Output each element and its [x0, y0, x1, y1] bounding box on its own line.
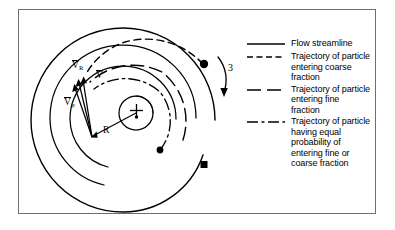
legend-swatch-dash-dot	[246, 116, 286, 128]
rotation-arrowhead	[220, 88, 227, 97]
label-vector-v-radial: VR	[72, 60, 83, 71]
legend-swatch-long-dash	[246, 84, 286, 96]
legend-item-flow-streamline: Flow streamline	[246, 38, 370, 50]
label-vector-v-tangential: Vφ	[64, 97, 75, 108]
particle-top-right	[200, 60, 208, 68]
vector-v	[79, 83, 92, 137]
particle-bottom-right	[201, 161, 208, 168]
legend-label-equal-probability-trajectory: Trajectory of particle having equal prob…	[291, 116, 370, 169]
trajectory-equal-probability	[94, 79, 170, 150]
legend-item-equal-probability-trajectory: Trajectory of particle having equal prob…	[246, 116, 370, 169]
trajectory-coarse	[86, 39, 203, 74]
legend-item-coarse-trajectory: Trajectory of particle entering coarse f…	[246, 51, 370, 83]
radius-line	[93, 113, 136, 136]
legend: Flow streamline Trajectory of particle e…	[246, 38, 370, 170]
legend-swatch-solid	[246, 38, 286, 50]
figure-screenshot: VR V Vφ R 3 Flow streamline Trajectory o…	[0, 0, 395, 230]
legend-swatch-dashed	[246, 51, 286, 63]
particle-lower-center	[157, 147, 164, 154]
rotation-arrow	[218, 57, 226, 92]
vector-v-tangential	[75, 88, 92, 137]
label-rotation-direction: 3	[228, 62, 233, 73]
vector-v-radial	[83, 80, 92, 137]
label-vector-v: V	[96, 70, 103, 80]
legend-label-flow-streamline: Flow streamline	[291, 38, 353, 49]
legend-label-coarse-trajectory: Trajectory of particle entering coarse f…	[291, 51, 370, 83]
legend-item-fine-trajectory: Trajectory of particle entering fine fra…	[246, 84, 370, 116]
legend-label-fine-trajectory: Trajectory of particle entering fine fra…	[291, 84, 370, 116]
label-radius: R	[103, 125, 109, 135]
